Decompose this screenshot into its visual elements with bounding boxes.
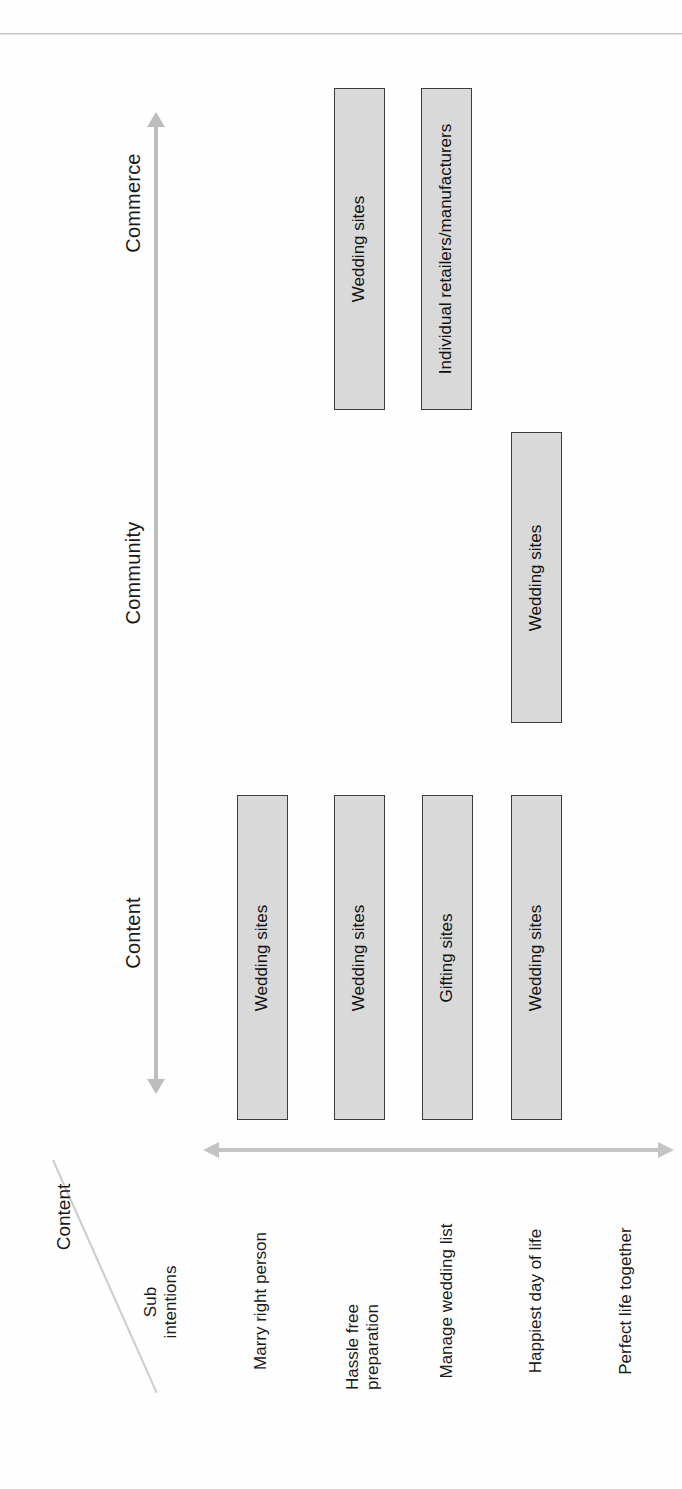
- scan-edge-line-soft: [0, 34, 682, 35]
- bar-label: Individual retailers/manufacturers: [437, 124, 457, 374]
- content-commerce-axis: [154, 125, 158, 1091]
- bar-label: Wedding sites: [527, 904, 547, 1010]
- scale-label-content: Content: [122, 853, 148, 1013]
- bar-community-happiest-day-of-life: Wedding sites: [511, 432, 562, 723]
- scale-label-community: Community: [122, 493, 148, 653]
- row-label-marry-right-person: Marry right person: [251, 1201, 273, 1401]
- bar-label: Gifting sites: [438, 913, 458, 1002]
- scale-label-commerce: Commerce: [122, 123, 148, 283]
- bar-label: Wedding sites: [350, 196, 370, 302]
- row-label-hassle-free-preparation: Hassle free preparation: [343, 1247, 387, 1447]
- bar-content-hassle-free-preparation: Wedding sites: [334, 795, 385, 1120]
- corner-header-content: Content: [53, 1127, 77, 1307]
- rows-arrow-head-right: [658, 1142, 674, 1158]
- bar-commerce-manage-wedding-list: Individual retailers/manufacturers: [421, 88, 472, 410]
- row-label-perfect-life-together: Perfect life together: [616, 1201, 638, 1401]
- row-label-manage-wedding-list: Manage wedding list: [437, 1201, 459, 1401]
- corner-header-sub-intentions: Sub intentions: [141, 1212, 185, 1392]
- bar-content-happiest-day-of-life: Wedding sites: [511, 795, 562, 1120]
- bar-label: Wedding sites: [350, 904, 370, 1010]
- sub-intentions-axis: [218, 1148, 658, 1152]
- bar-label: Wedding sites: [253, 904, 273, 1010]
- row-label-happiest-day-of-life: Happiest day of life: [526, 1201, 548, 1401]
- figure-page: Commerce Community Content Content Sub i…: [0, 0, 682, 1489]
- rows-arrow-head-left: [203, 1142, 219, 1158]
- bar-content-manage-wedding-list: Gifting sites: [422, 795, 473, 1120]
- bar-commerce-hassle-free-preparation: Wedding sites: [334, 88, 385, 410]
- bar-content-marry-right-person: Wedding sites: [237, 795, 288, 1120]
- scale-arrow-head-bottom: [147, 1079, 165, 1094]
- bar-label: Wedding sites: [527, 524, 547, 630]
